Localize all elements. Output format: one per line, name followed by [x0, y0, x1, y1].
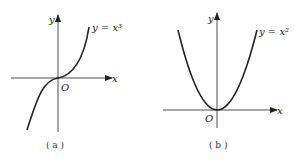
- x-axis-label: x: [112, 73, 118, 84]
- x-axis-label: x: [277, 105, 283, 116]
- curve-label: y = x³: [91, 22, 122, 33]
- panel-a: y x O y = x³ ( a ): [11, 14, 122, 150]
- figure: y x O y = x³ ( a ) y x O y = x² ( b ): [0, 0, 295, 162]
- origin-label: O: [61, 82, 69, 93]
- origin-label: O: [205, 113, 213, 124]
- y-axis-label: y: [207, 13, 214, 24]
- caption-a: ( a ): [46, 140, 64, 150]
- caption-b: ( b ): [209, 140, 228, 150]
- curve-label: y = x²: [258, 26, 289, 37]
- y-axis-label: y: [48, 14, 55, 25]
- parabola-curve: [178, 30, 257, 110]
- panel-b: y x O y = x² ( b ): [163, 13, 289, 150]
